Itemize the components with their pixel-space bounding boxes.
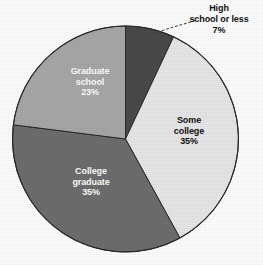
pie-slice-group <box>12 26 238 252</box>
pie-chart: Graduate school 23% Some college 35% Col… <box>0 0 263 265</box>
pie-slice-graduate-school <box>13 26 125 139</box>
pie-chart-canvas <box>0 0 263 265</box>
callout-leader-line <box>154 21 197 34</box>
